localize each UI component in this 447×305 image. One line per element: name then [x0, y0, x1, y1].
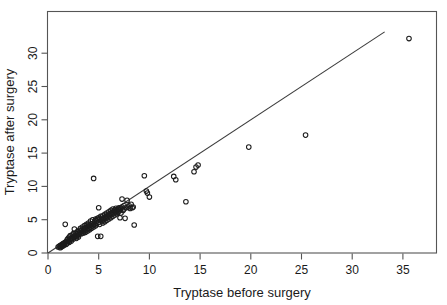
y-axis-title: Tryptase after surgery [2, 68, 17, 195]
x-tick-label: 30 [346, 263, 360, 277]
y-tick-label: 15 [26, 146, 40, 160]
data-point [132, 223, 137, 228]
y-tick-label: 5 [26, 216, 40, 223]
data-point [147, 195, 152, 200]
y-tick-label: 30 [26, 46, 40, 60]
y-tick-label: 25 [26, 80, 40, 94]
data-point [63, 222, 68, 227]
x-tick-label: 35 [396, 263, 410, 277]
x-axis-tick-labels: 05101520253035 [45, 263, 410, 277]
x-tick-label: 25 [295, 263, 309, 277]
y-axis-ticks [42, 53, 48, 253]
x-axis-ticks [48, 254, 403, 260]
x-tick-label: 10 [143, 263, 157, 277]
x-tick-label: 15 [193, 263, 207, 277]
plot-canvas: 05101520253035 051015202530 Tryptase bef… [0, 0, 447, 305]
y-tick-label: 10 [26, 179, 40, 193]
data-point [303, 133, 308, 138]
x-axis-title: Tryptase before surgery [173, 285, 311, 300]
data-point [96, 205, 101, 210]
data-point [118, 215, 123, 220]
x-tick-label: 20 [244, 263, 258, 277]
data-point [91, 176, 96, 181]
x-tick-label: 0 [45, 263, 52, 277]
data-points [56, 36, 411, 250]
data-point [184, 199, 189, 204]
scatter-plot-figure: 05101520253035 051015202530 Tryptase bef… [0, 0, 447, 305]
y-tick-label: 20 [26, 113, 40, 127]
y-tick-label: 0 [26, 249, 40, 256]
data-point [98, 234, 103, 239]
data-point [407, 36, 412, 41]
data-point [246, 145, 251, 150]
data-point [142, 173, 147, 178]
x-tick-label: 5 [95, 263, 102, 277]
data-point [123, 216, 128, 221]
data-point [192, 169, 197, 174]
data-point [120, 197, 125, 202]
y-axis-tick-labels: 051015202530 [26, 46, 40, 256]
